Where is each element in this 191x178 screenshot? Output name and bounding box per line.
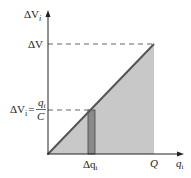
top-value-label: ΔV xyxy=(28,38,43,50)
strip-value-label: ΔVi= xyxy=(10,103,34,118)
y-axis-arrow-icon xyxy=(46,10,51,17)
charge-strip xyxy=(88,110,95,154)
fraction-numerator: qi xyxy=(38,96,46,110)
x-axis-arrow-icon xyxy=(177,152,184,157)
fraction-denominator: C xyxy=(37,110,45,122)
capacitor-energy-diagram: ΔVi ΔV ΔVi= qi C Q qi Δqi xyxy=(0,0,191,178)
x-axis-label: qi xyxy=(176,157,184,171)
x-end-label: Q xyxy=(150,157,158,169)
strip-width-label: Δqi xyxy=(83,158,98,172)
y-axis-label: ΔVi xyxy=(24,8,41,23)
